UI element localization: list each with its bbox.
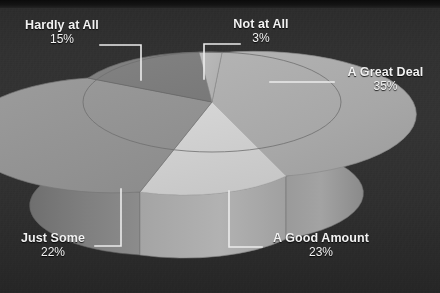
- label-not-at-all-name: Not at All: [217, 17, 305, 31]
- label-hardly-at-all-name: Hardly at All: [12, 18, 112, 32]
- label-just-some-percent: 22%: [14, 245, 92, 260]
- label-a-good-amount-percent: 23%: [265, 245, 377, 260]
- label-not-at-all: Not at All 3%: [217, 17, 305, 46]
- label-a-great-deal-percent: 35%: [337, 79, 434, 94]
- label-a-great-deal: A Great Deal 35%: [337, 65, 434, 94]
- label-just-some-name: Just Some: [14, 231, 92, 245]
- label-a-good-amount-name: A Good Amount: [265, 231, 377, 245]
- label-a-great-deal-name: A Great Deal: [337, 65, 434, 79]
- label-hardly-at-all: Hardly at All 15%: [12, 18, 112, 47]
- pie-chart-figure: Hardly at All 15% Not at All 3% A Great …: [0, 0, 440, 293]
- label-not-at-all-percent: 3%: [217, 31, 305, 46]
- label-hardly-at-all-percent: 15%: [12, 32, 112, 47]
- label-just-some: Just Some 22%: [14, 231, 92, 260]
- label-a-good-amount: A Good Amount 23%: [265, 231, 377, 260]
